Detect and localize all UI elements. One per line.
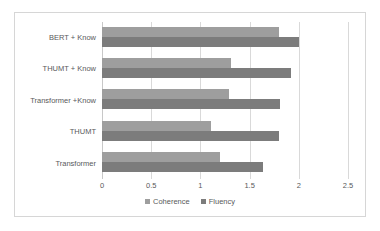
bar-fluency[interactable] xyxy=(102,162,263,172)
category-row: THUMT xyxy=(102,116,348,147)
category-row: THUMT + Know xyxy=(102,53,348,84)
chart-frame: BERT + KnowTHUMT + KnowTransformer +Know… xyxy=(14,12,366,217)
gridline xyxy=(348,22,349,179)
category-row: BERT + Know xyxy=(102,22,348,53)
x-axis-tick-labels: 00.511.522.5 xyxy=(102,181,348,195)
legend-swatch-coherence-icon xyxy=(145,199,150,204)
x-tick-label: 2 xyxy=(297,181,301,190)
bar-coherence[interactable] xyxy=(102,152,220,162)
bar-fluency[interactable] xyxy=(102,99,280,109)
category-row: Transformer xyxy=(102,148,348,179)
x-tick-label: 1 xyxy=(198,181,202,190)
chart-legend: Coherence Fluency xyxy=(15,197,365,206)
category-row: Transformer +Know xyxy=(102,85,348,116)
x-tick-label: 2.5 xyxy=(343,181,353,190)
category-label: Transformer xyxy=(0,148,102,179)
bar-fluency[interactable] xyxy=(102,37,299,47)
bar-fluency[interactable] xyxy=(102,131,279,141)
legend-item-coherence[interactable]: Coherence xyxy=(145,197,190,206)
category-label: BERT + Know xyxy=(0,22,102,53)
bar-coherence[interactable] xyxy=(102,89,229,99)
legend-swatch-fluency-icon xyxy=(201,199,206,204)
x-tick-label: 0.5 xyxy=(146,181,156,190)
bar-coherence[interactable] xyxy=(102,121,211,131)
category-label: Transformer +Know xyxy=(0,85,102,116)
legend-label-fluency: Fluency xyxy=(209,197,235,206)
plot-area: BERT + KnowTHUMT + KnowTransformer +Know… xyxy=(102,22,348,179)
legend-label-coherence: Coherence xyxy=(153,197,190,206)
bar-coherence[interactable] xyxy=(102,58,231,68)
category-label: THUMT xyxy=(0,116,102,147)
bar-coherence[interactable] xyxy=(102,27,279,37)
category-label: THUMT + Know xyxy=(0,53,102,84)
x-tick-label: 1.5 xyxy=(244,181,254,190)
x-tick-label: 0 xyxy=(100,181,104,190)
legend-item-fluency[interactable]: Fluency xyxy=(201,197,235,206)
bar-fluency[interactable] xyxy=(102,68,291,78)
